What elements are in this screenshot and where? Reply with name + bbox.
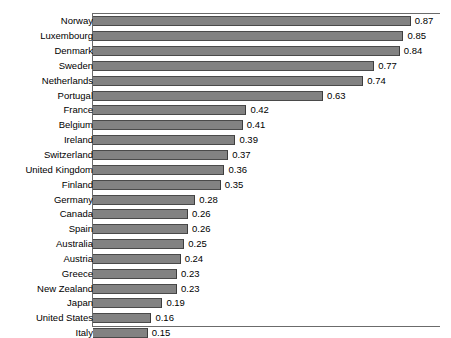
bar-container [93,284,177,294]
value-label: 0.24 [185,254,204,264]
bar [93,31,403,41]
bar [93,180,221,190]
bar-container [93,76,363,86]
bar-container [93,254,181,264]
bar [93,76,363,86]
bar-container [93,180,221,190]
bar [93,150,228,160]
category-label: Italy [76,328,93,338]
value-label: 0.74 [367,76,386,86]
bar [93,239,184,249]
bar [93,91,323,101]
category-label: Austria [63,254,93,264]
category-label: Spain [69,224,93,234]
bar-row: Ireland0.39 [0,133,451,148]
bar-row: Belgium0.41 [0,118,451,133]
category-label: Greece [62,269,93,279]
bar-container [93,195,195,205]
bar [93,313,151,323]
value-label: 0.15 [152,328,171,338]
bar-row: Norway0.87 [0,14,451,29]
bar-row: Portugal0.63 [0,88,451,103]
bar [93,165,224,175]
bar-row: Greece0.23 [0,266,451,281]
bar [93,195,195,205]
bar [93,16,411,26]
category-label: United Kingdom [25,165,93,175]
bar-row: Netherlands0.74 [0,73,451,88]
category-label: Ireland [64,135,93,145]
value-label: 0.23 [181,284,200,294]
bar [93,46,400,56]
value-label: 0.28 [199,195,218,205]
bar-container [93,209,188,219]
bar-row: Luxembourg0.85 [0,29,451,44]
category-label: Germany [54,195,93,205]
category-label: United States [36,313,93,323]
bar [93,284,177,294]
bar-row: France0.42 [0,103,451,118]
value-label: 0.37 [232,150,251,160]
value-label: 0.39 [239,135,258,145]
bar-container [93,239,184,249]
value-label: 0.26 [192,224,211,234]
bar-row: Japan0.19 [0,296,451,311]
bar-container [93,61,374,71]
value-label: 0.19 [166,298,185,308]
bar [93,224,188,234]
category-label: Canada [60,209,93,219]
bar-container [93,313,151,323]
bar [93,61,374,71]
value-label: 0.16 [155,313,174,323]
value-label: 0.84 [404,46,423,56]
value-label: 0.63 [327,91,346,101]
bar-container [93,269,177,279]
value-label: 0.35 [225,180,244,190]
bar [93,120,243,130]
category-label: Norway [61,16,93,26]
bar-row: United Kingdom0.36 [0,162,451,177]
bar-row: New Zealand0.23 [0,281,451,296]
bar-rows: Norway0.87Luxembourg0.85Denmark0.84Swede… [0,14,451,338]
category-label: Switzerland [44,150,93,160]
category-label: Denmark [54,46,93,56]
bar [93,328,148,338]
value-label: 0.41 [247,120,266,130]
value-label: 0.87 [415,16,434,26]
bar-row: Australia0.25 [0,237,451,252]
value-label: 0.85 [407,31,426,41]
bar-container [93,105,246,115]
bar-row: Canada0.26 [0,207,451,222]
bar-row: Germany0.28 [0,192,451,207]
bar-row: Denmark0.84 [0,44,451,59]
bar-row: Austria0.24 [0,252,451,267]
value-label: 0.23 [181,269,200,279]
category-label: Australia [56,239,93,249]
bar-row: Switzerland0.37 [0,148,451,163]
bar [93,209,188,219]
bar-row: Sweden0.77 [0,59,451,74]
category-label: Netherlands [42,76,93,86]
category-label: Luxembourg [40,31,93,41]
category-label: Belgium [59,120,93,130]
bar [93,269,177,279]
bar [93,105,246,115]
bar-container [93,328,148,338]
bar-container [93,46,400,56]
bar-row: Finland0.35 [0,177,451,192]
bar-container [93,165,224,175]
bar-row: Italy0.15 [0,326,451,338]
category-label: Portugal [58,91,93,101]
bar-chart: Norway0.87Luxembourg0.85Denmark0.84Swede… [0,0,451,338]
bar-container [93,298,162,308]
bar [93,298,162,308]
bar-container [93,91,323,101]
value-label: 0.36 [228,165,247,175]
bar-container [93,16,411,26]
bar-container [93,120,243,130]
bar-container [93,135,235,145]
value-label: 0.42 [250,105,269,115]
bar-container [93,150,228,160]
category-label: New Zealand [37,284,93,294]
category-label: Finland [62,180,93,190]
